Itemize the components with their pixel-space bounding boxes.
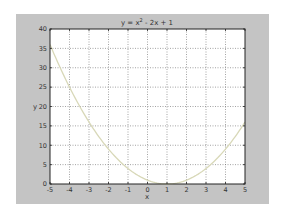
x-tick-label: -4 [66, 186, 72, 194]
x-tick-label: 4 [223, 186, 227, 194]
y-tick-labels: 0510152025303540 [39, 25, 47, 188]
y-tick-label: 40 [39, 25, 47, 33]
x-tick-label: 3 [204, 186, 208, 194]
y-tick-label: 30 [39, 64, 47, 72]
x-tick-label: 5 [243, 186, 247, 194]
y-tick-label: 20 [39, 103, 47, 111]
y-tick-label: 25 [39, 83, 47, 91]
x-tick-label: 1 [165, 186, 169, 194]
x-tick-label: -3 [86, 186, 92, 194]
x-tick-label: -2 [105, 186, 111, 194]
y-tick-label: 5 [43, 161, 47, 169]
x-tick-label: -1 [125, 186, 131, 194]
y-tick-label: 0 [43, 180, 47, 188]
y-axis-label: y [33, 103, 37, 111]
chart-title: y = x2 - 2x + 1 [121, 17, 173, 27]
x-tick-label: 2 [184, 186, 188, 194]
x-axis-label: x [145, 193, 149, 201]
y-tick-label: 35 [39, 45, 47, 53]
y-tick-label: 10 [39, 142, 47, 150]
line-chart: -5-4-3-2-1012345 0510152025303540 y = x2… [0, 0, 281, 214]
y-tick-label: 15 [39, 122, 47, 130]
x-tick-label: -5 [47, 186, 53, 194]
